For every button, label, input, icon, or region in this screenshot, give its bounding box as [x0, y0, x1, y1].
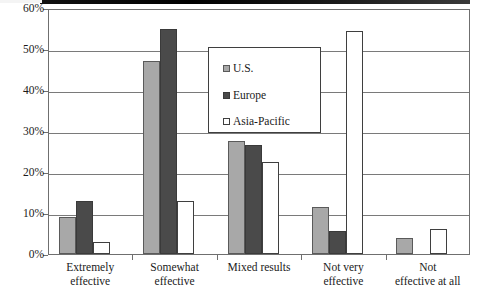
bar-u-s--5 — [396, 238, 413, 254]
europe-swatch-icon — [223, 92, 230, 99]
legend-item-europe: Europe — [223, 89, 266, 101]
legend-label-us: U.S. — [233, 62, 253, 74]
bar-u-s--3 — [228, 141, 245, 254]
x-axis-label-line: Extremely — [48, 261, 132, 275]
bar-europe-3 — [245, 145, 262, 254]
legend: U.S. Europe Asia-Pacific — [208, 47, 321, 133]
x-axis-label: Mixed results — [217, 261, 301, 275]
y-axis-label: 40% — [23, 85, 44, 97]
x-axis-label-line: Not — [386, 261, 470, 275]
y-axis-label: 30% — [23, 126, 44, 138]
bar-asia-pacific-1 — [93, 242, 110, 254]
y-axis-label: 50% — [23, 44, 44, 56]
us-swatch-icon — [223, 65, 230, 72]
legend-item-asia-pacific: Asia-Pacific — [223, 115, 290, 127]
x-axis-label-line: effective at all — [386, 275, 470, 289]
x-axis-label-line: Mixed results — [217, 261, 301, 275]
bar-europe-4 — [329, 231, 346, 254]
x-axis-label: Extremelyeffective — [48, 261, 132, 288]
y-axis-label: 0% — [29, 249, 44, 261]
bar-u-s--2 — [143, 61, 160, 254]
bar-europe-2 — [160, 29, 177, 255]
x-axis-tick — [217, 255, 218, 260]
x-axis-tick — [386, 255, 387, 260]
asia-pacific-swatch-icon — [223, 118, 230, 125]
x-axis-label-line: effective — [132, 275, 216, 289]
x-axis-tick — [132, 255, 133, 260]
bar-europe-1 — [76, 201, 93, 254]
x-axis-label-line: Not very — [301, 261, 385, 275]
scan-artifact-band — [40, 0, 470, 4]
y-axis-label: 20% — [23, 167, 44, 179]
bar-u-s--4 — [312, 207, 329, 254]
y-axis-label: 10% — [23, 208, 44, 220]
x-axis-label-line: effective — [301, 275, 385, 289]
x-axis-label: Somewhateffective — [132, 261, 216, 288]
x-axis-label-line: Somewhat — [132, 261, 216, 275]
bar-asia-pacific-5 — [430, 229, 447, 254]
legend-label-europe: Europe — [233, 89, 266, 101]
bar-asia-pacific-2 — [177, 201, 194, 254]
x-axis-tick — [301, 255, 302, 260]
y-axis-label: 60% — [23, 3, 44, 15]
x-axis-label-line: effective — [48, 275, 132, 289]
legend-label-asia-pacific: Asia-Pacific — [233, 115, 290, 127]
bar-chart: 0%10%20%30%40%50%60% ExtremelyeffectiveS… — [0, 0, 480, 294]
bar-u-s--1 — [59, 217, 76, 254]
bar-asia-pacific-4 — [346, 31, 363, 254]
legend-item-us: U.S. — [223, 62, 253, 74]
x-axis-label: Not veryeffective — [301, 261, 385, 288]
bar-asia-pacific-3 — [262, 162, 279, 254]
x-axis-label: Noteffective at all — [386, 261, 470, 288]
